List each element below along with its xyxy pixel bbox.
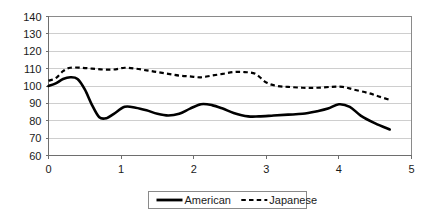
legend-label-japanese: Japanese <box>269 194 317 206</box>
x-tick-label: 3 <box>263 163 269 175</box>
x-tick-label: 1 <box>118 163 124 175</box>
chart-canvas: 60708090100110120130140 012345 AmericanJ… <box>0 0 433 220</box>
y-tick-label: 110 <box>24 63 42 75</box>
x-tick-label: 2 <box>191 163 197 175</box>
x-tick-label: 4 <box>336 163 342 175</box>
chart-background <box>0 0 433 220</box>
y-tick-label: 140 <box>23 11 41 23</box>
y-tick-label: 80 <box>29 115 41 127</box>
x-tick-label: 5 <box>408 163 414 175</box>
legend-label-american: American <box>185 194 231 206</box>
y-tick-label: 120 <box>23 45 41 57</box>
y-tick-label: 100 <box>23 80 41 92</box>
y-tick-label: 130 <box>23 28 41 40</box>
chart-legend: AmericanJapanese <box>149 192 318 209</box>
x-tick-label: 0 <box>45 163 51 175</box>
y-tick-label: 70 <box>29 132 41 144</box>
y-tick-label: 60 <box>29 150 41 162</box>
line-chart-figure: 60708090100110120130140 012345 AmericanJ… <box>0 0 433 220</box>
y-tick-label: 90 <box>29 97 41 109</box>
